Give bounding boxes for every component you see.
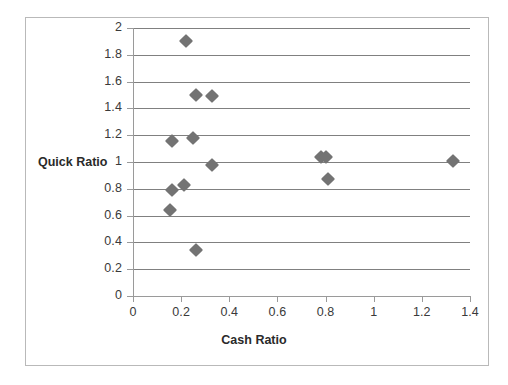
y-axis-tick-label: 0 bbox=[62, 288, 122, 302]
data-point bbox=[189, 88, 203, 102]
y-axis-tick-label: 1.6 bbox=[62, 74, 122, 88]
plot-area bbox=[133, 28, 470, 296]
y-axis-tick-label: 2 bbox=[62, 20, 122, 34]
y-axis-tick-label: 1.4 bbox=[62, 100, 122, 114]
x-axis-tick bbox=[470, 296, 471, 302]
y-axis-tick-label: 0.2 bbox=[62, 261, 122, 275]
y-axis-tick-label: 0.6 bbox=[62, 208, 122, 222]
x-axis-tick bbox=[422, 296, 423, 302]
y-axis-tick-label: 1.2 bbox=[62, 127, 122, 141]
x-axis-title: Cash Ratio bbox=[0, 333, 508, 347]
data-point bbox=[189, 243, 203, 257]
x-axis-tick bbox=[277, 296, 278, 302]
y-axis-tick-label: 0.8 bbox=[62, 181, 122, 195]
data-point bbox=[163, 203, 177, 217]
x-axis-tick bbox=[181, 296, 182, 302]
x-axis-tick bbox=[229, 296, 230, 302]
data-point bbox=[164, 133, 178, 147]
x-axis-tick bbox=[326, 296, 327, 302]
data-point bbox=[179, 34, 193, 48]
data-point bbox=[205, 89, 219, 103]
data-point bbox=[205, 158, 219, 172]
data-point bbox=[186, 131, 200, 145]
data-point bbox=[321, 172, 335, 186]
x-axis-tick bbox=[133, 296, 134, 302]
scatter-chart-figure: Quick Ratio Cash Ratio 00.20.40.60.811.2… bbox=[0, 0, 508, 385]
x-axis-tick bbox=[374, 296, 375, 302]
data-point bbox=[446, 154, 460, 168]
x-axis-line bbox=[133, 296, 471, 297]
y-axis-tick-label: 1.8 bbox=[62, 47, 122, 61]
y-axis-tick-label: 1 bbox=[62, 154, 122, 168]
y-axis-tick-label: 0.4 bbox=[62, 234, 122, 248]
x-axis-tick-label: 1.4 bbox=[440, 305, 500, 319]
